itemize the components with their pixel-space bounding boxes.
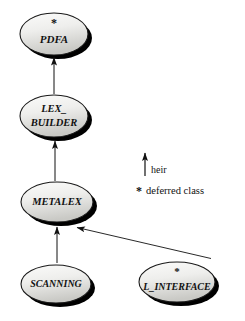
node-metalex[interactable]: METALEX xyxy=(21,182,93,222)
edge-l_interface-to-metalex xyxy=(77,228,211,259)
node-pdfa-label: PDFA xyxy=(40,33,68,45)
node-lex-builder[interactable]: LEX_ BUILDER xyxy=(20,95,88,137)
node-lex-builder-label-line2: BUILDER xyxy=(30,117,78,128)
node-l-interface-label: L_INTERFACE xyxy=(142,281,211,292)
edge-layer xyxy=(54,58,211,264)
legend-deferred-label: deferred class xyxy=(146,185,204,196)
node-pdfa-deferred-star: * xyxy=(51,16,57,30)
node-pdfa[interactable]: * PDFA xyxy=(20,13,88,55)
node-scanning[interactable]: SCANNING xyxy=(21,265,91,303)
legend: heir * deferred class xyxy=(136,153,204,198)
diagram-canvas: * PDFA LEX_ BUILDER METALEX SCANNING * L… xyxy=(0,0,245,321)
class-inheritance-diagram: * PDFA LEX_ BUILDER METALEX SCANNING * L… xyxy=(0,0,245,321)
node-lex-builder-ellipse[interactable] xyxy=(20,95,88,137)
node-scanning-label: SCANNING xyxy=(30,278,82,289)
legend-heir-label: heir xyxy=(151,164,167,175)
node-metalex-label: METALEX xyxy=(31,196,83,207)
legend-deferred-star-icon: * xyxy=(136,184,142,198)
node-l-interface-deferred-star: * xyxy=(174,265,180,277)
node-l-interface[interactable]: * L_INTERFACE xyxy=(139,262,215,302)
node-lex-builder-label-line1: LEX_ xyxy=(40,103,67,114)
